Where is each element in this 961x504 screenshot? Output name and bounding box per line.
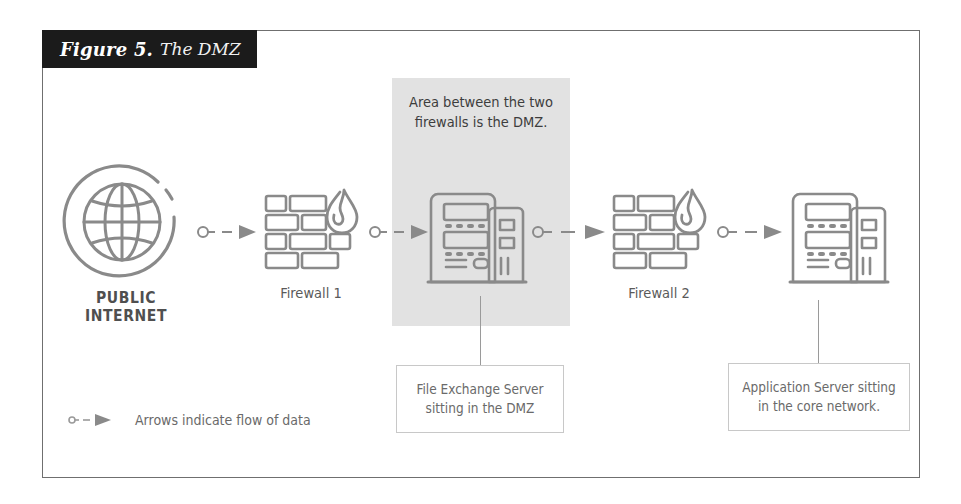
node-firewall-2[interactable]: Firewall 2 [604,186,714,302]
node-application-server[interactable] [782,182,902,298]
figure-diagram: Area between the two firewalls is the DM… [0,0,961,504]
server-icon [420,182,540,294]
dmz-caption: Area between the two firewalls is the DM… [392,92,570,132]
arrow-flow-icon [68,412,126,428]
callout-dmz-server-text: File Exchange Server sitting in the DMZ [416,380,543,418]
legend-label: Arrows indicate flow of data [135,412,311,428]
firewall-icon [604,186,714,276]
figure-title-banner: Figure 5. The DMZ [42,30,257,68]
node-label-firewall-2: Firewall 2 [604,284,714,302]
node-label-firewall-1: Firewall 1 [256,284,366,302]
callout-application-server-text: Application Server sitting in the core n… [742,378,895,416]
node-dmz-server[interactable] [420,182,540,298]
legend: Arrows indicate flow of data [68,412,311,428]
flow-connector-firewall-1-to-dmz-server [368,222,430,242]
server-icon [782,182,902,294]
callout-application-server: Application Server sitting in the core n… [728,363,910,431]
flow-connector-firewall-2-to-application-server [716,222,784,242]
node-label-public-internet: PUBLIC INTERNET [62,289,190,325]
flow-connector-dmz-server-to-firewall-2 [530,222,608,242]
firewall-icon [256,186,366,276]
leader-line-application-server [818,300,819,363]
leader-line-dmz-server [480,296,481,365]
figure-number: Figure 5. [60,39,153,60]
flow-connector-internet-to-firewall-1 [196,222,258,242]
globe-icon [62,163,190,281]
node-firewall-1[interactable]: Firewall 1 [256,186,366,302]
figure-title: The DMZ [160,39,241,59]
node-public-internet[interactable]: PUBLIC INTERNET [62,163,190,325]
callout-dmz-server: File Exchange Server sitting in the DMZ [396,365,564,433]
